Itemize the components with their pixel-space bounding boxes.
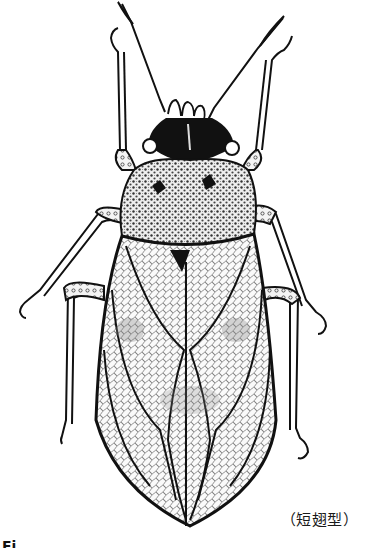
- cropped-figure-label: Fi: [2, 540, 16, 548]
- figure-caption: （短翅型）: [281, 508, 359, 529]
- head: [143, 100, 239, 162]
- pronotum: [121, 159, 257, 250]
- antennae: [118, 2, 284, 120]
- forewings: [96, 234, 276, 526]
- insect-illustration: [0, 0, 366, 548]
